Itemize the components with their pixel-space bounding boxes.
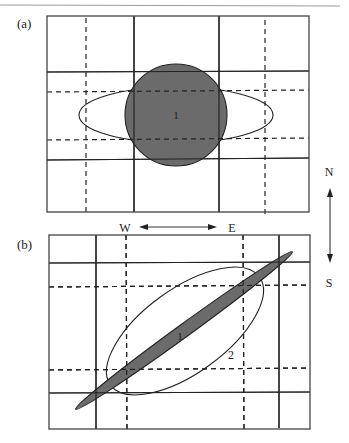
east-west-indicator: W E xyxy=(119,221,235,235)
arrowhead-north-icon xyxy=(327,188,333,197)
panel-a: (a) 1 xyxy=(17,16,309,215)
panel-b-region-2-label: 2 xyxy=(228,348,234,362)
dashed-vertical-line xyxy=(243,235,244,429)
solid-horizontal-line xyxy=(47,71,309,72)
top-rule xyxy=(0,5,340,6)
west-label: W xyxy=(119,221,131,235)
arrowhead-south-icon xyxy=(327,254,333,263)
panel-b: (b) 1 2 xyxy=(17,235,310,429)
north-label: N xyxy=(325,165,334,179)
east-label: E xyxy=(228,221,235,235)
panel-b-label: (b) xyxy=(17,237,32,252)
dashed-horizontal-line xyxy=(49,285,310,287)
arrowhead-east-icon xyxy=(208,224,217,230)
panel-b-region-1-label: 1 xyxy=(177,330,183,342)
arrowhead-west-icon xyxy=(139,224,148,230)
solid-horizontal-line xyxy=(49,392,310,393)
panel-b-thin-ellipse-region-1 xyxy=(72,246,296,414)
south-label: S xyxy=(326,276,333,290)
diagram-canvas: (a) 1 W E xyxy=(0,0,349,443)
dashed-vertical-line xyxy=(126,235,127,429)
panel-a-label: (a) xyxy=(17,16,31,31)
north-south-indicator: N S xyxy=(325,165,334,290)
panel-a-region-1-label: 1 xyxy=(173,109,179,121)
dashed-horizontal-line xyxy=(49,368,310,370)
